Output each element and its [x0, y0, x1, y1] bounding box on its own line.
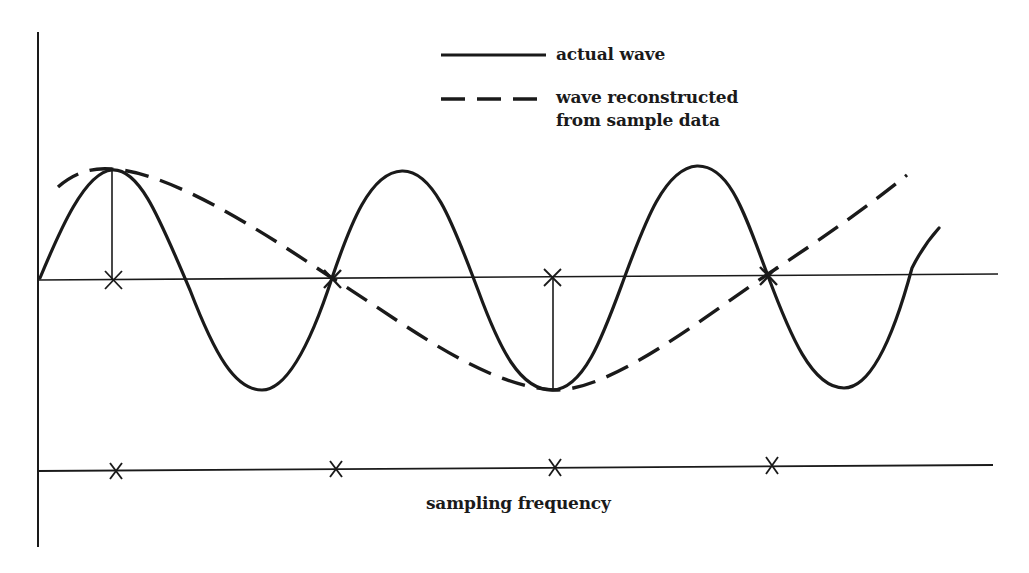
actual-wave-line [40, 166, 939, 390]
sampling-axis [38, 465, 993, 471]
sampling-frequency-label: sampling frequency [426, 492, 611, 514]
legend-reconstructed-label-line2: from sample data [556, 109, 720, 131]
legend-reconstructed-label-line1: wave reconstructed [556, 86, 738, 108]
legend-actual-label: actual wave [556, 43, 665, 65]
aliasing-diagram [0, 0, 1029, 573]
